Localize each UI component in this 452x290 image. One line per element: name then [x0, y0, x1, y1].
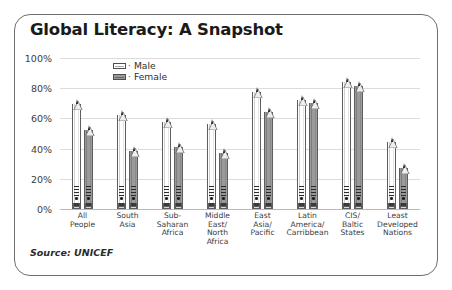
pencil-body: [264, 112, 273, 209]
pencil-markings: [388, 174, 395, 200]
pencil-markings: [163, 174, 170, 200]
pencil-eraser: [175, 206, 182, 210]
pencil-graphite-tip-icon: [76, 99, 78, 104]
pencil-body: [297, 100, 306, 209]
female-pencil-swatch-icon: [113, 74, 126, 80]
pencil-eraser: [298, 206, 305, 210]
pencil-graphite-tip-icon: [346, 77, 348, 82]
legend-item-male: · Male: [113, 60, 167, 71]
pencil-graphite-tip-icon: [166, 117, 168, 122]
pencil-eraser: [130, 206, 137, 210]
x-axis-tick-label: AllPeople: [60, 212, 105, 246]
pencil-markings: [253, 174, 260, 200]
x-axis-tick-label: Sub-SaharanAfrica: [150, 212, 195, 246]
pencil-eraser: [73, 206, 80, 210]
y-axis-tick-label: 0%: [37, 204, 52, 215]
y-axis-tick-label: 80%: [31, 83, 52, 94]
x-axis-tick-label: EastAsia/Pacific: [240, 212, 285, 246]
bar-female: [354, 86, 363, 209]
pencil-body: [354, 86, 363, 209]
pencil-graphite-tip-icon: [133, 146, 135, 151]
y-axis-labels: 0%20%40%60%80%100%: [0, 58, 56, 209]
pencil-markings: [343, 174, 350, 200]
bar-group: [330, 58, 375, 209]
pencil-body: [342, 82, 351, 209]
bar-group: [375, 58, 420, 209]
pencil-eraser: [400, 206, 407, 210]
bar-male: [297, 100, 306, 209]
pencil-body: [162, 122, 171, 209]
bar-group: [60, 58, 105, 209]
bar-female: [84, 130, 93, 209]
pencil-body: [399, 168, 408, 209]
bar-male: [207, 124, 216, 209]
x-axis-tick-label: CIS/BalticStates: [330, 212, 375, 246]
pencil-eraser: [355, 206, 362, 210]
pencil-graphite-tip-icon: [223, 148, 225, 153]
bar-male: [72, 104, 81, 209]
legend-separator-male: ·: [128, 61, 131, 71]
pencil-body: [129, 151, 138, 209]
pencil-graphite-tip-icon: [391, 137, 393, 142]
pencil-graphite-tip-icon: [256, 87, 258, 92]
pencil-body: [72, 104, 81, 209]
literacy-chart-screenshot: Global Literacy: A Snapshot 0%20%40%60%8…: [0, 0, 452, 290]
pencil-graphite-tip-icon: [121, 110, 123, 115]
pencil-eraser: [220, 206, 227, 210]
bar-female: [309, 103, 318, 209]
page-title: Global Literacy: A Snapshot: [30, 20, 283, 39]
bar-female: [219, 153, 228, 209]
bar-male: [117, 115, 126, 209]
pencil-body: [387, 142, 396, 209]
pencil-body: [174, 147, 183, 210]
bar-group: [285, 58, 330, 209]
pencil-markings: [130, 174, 137, 200]
pencil-markings: [208, 174, 215, 200]
pencil-markings: [298, 174, 305, 200]
bar-female: [399, 168, 408, 209]
legend-label-male: Male: [134, 60, 156, 71]
pencil-markings: [118, 174, 125, 200]
x-axis-labels: AllPeopleSouthAsiaSub-SaharanAfricaMiddl…: [60, 212, 420, 246]
pencil-graphite-tip-icon: [358, 81, 360, 86]
pencil-eraser: [118, 206, 125, 210]
pencil-body: [309, 103, 318, 209]
pencil-markings: [220, 174, 227, 200]
bar-group: [195, 58, 240, 209]
bar-male: [162, 122, 171, 209]
pencil-eraser: [163, 206, 170, 210]
pencil-graphite-tip-icon: [268, 107, 270, 112]
x-axis-tick-label: LeastDevelopedNations: [375, 212, 420, 246]
pencil-eraser: [85, 206, 92, 210]
bar-group: [240, 58, 285, 209]
pencil-body: [117, 115, 126, 209]
legend: · Male · Female: [113, 60, 167, 82]
legend-label-female: Female: [134, 71, 167, 82]
pencil-eraser: [208, 206, 215, 210]
bar-male: [387, 142, 396, 209]
pencil-markings: [175, 174, 182, 200]
pencil-markings: [400, 174, 407, 200]
bar-male: [342, 82, 351, 209]
male-pencil-swatch-icon: [113, 63, 126, 69]
y-axis-tick-label: 100%: [25, 53, 52, 64]
pencil-eraser: [265, 206, 272, 210]
pencil-body: [219, 153, 228, 209]
pencil-markings: [355, 174, 362, 200]
pencil-graphite-tip-icon: [88, 125, 90, 130]
pencil-markings: [265, 174, 272, 200]
legend-item-female: · Female: [113, 71, 167, 82]
pencil-markings: [85, 174, 92, 200]
pencil-eraser: [310, 206, 317, 210]
bar-female: [129, 151, 138, 209]
pencil-markings: [310, 174, 317, 200]
pencil-body: [207, 124, 216, 209]
gridline-0: [60, 209, 420, 210]
bar-male: [252, 92, 261, 209]
pencil-graphite-tip-icon: [313, 98, 315, 103]
bar-female: [264, 112, 273, 209]
x-axis-tick-label: LatinAmerica/Carribbean: [285, 212, 330, 246]
pencil-graphite-tip-icon: [301, 95, 303, 100]
legend-separator-female: ·: [128, 72, 131, 82]
pencil-graphite-tip-icon: [211, 119, 213, 124]
